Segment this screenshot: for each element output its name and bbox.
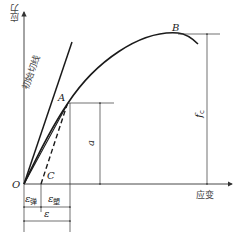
eps-plastic-subscript: 塑: [53, 198, 60, 206]
eps-elastic-subscript: 弹: [30, 198, 37, 206]
eps-elastic-label: ε弹: [25, 194, 37, 206]
fc-subscript: c: [198, 110, 206, 114]
point-a-label: A: [58, 93, 65, 103]
secant-line: [24, 103, 68, 184]
fc-symbol: f: [193, 114, 204, 118]
eps-total-label: ε: [44, 209, 49, 219]
x-axis-label: 应变: [196, 191, 214, 200]
point-b-label: B: [172, 23, 179, 33]
origin-label: O: [12, 180, 20, 190]
a-dimension-label: a: [86, 140, 96, 146]
point-c-label: C: [47, 171, 55, 181]
stress-strain-diagram: 应力 应变 O 初始切线 A B C a fc ε弹 ε塑 ε: [0, 0, 237, 241]
fc-dimension-label: fc: [194, 110, 206, 118]
eps-plastic-label: ε塑: [48, 194, 60, 206]
y-axis-label: 应力: [10, 4, 19, 22]
